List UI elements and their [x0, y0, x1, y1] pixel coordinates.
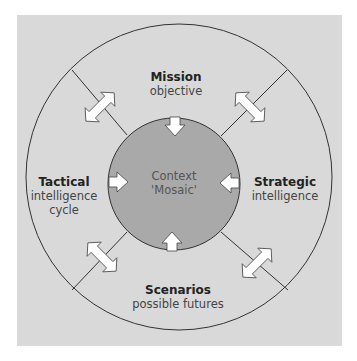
center-label-line1: Context: [151, 169, 197, 183]
intelligence-diagram: Context 'Mosaic' Mission objective Strat…: [0, 0, 357, 361]
segment-right-title: Strategic: [254, 175, 316, 189]
segment-left-title: Tactical: [38, 175, 89, 189]
segment-left-subtitle-1: intelligence: [31, 189, 98, 203]
segment-right-subtitle: intelligence: [252, 189, 319, 203]
segment-left-subtitle-2: cycle: [49, 203, 79, 217]
segment-top-title: Mission: [150, 70, 201, 84]
center-label-line2: 'Mosaic': [151, 183, 197, 197]
segment-bottom-subtitle: possible futures: [132, 297, 223, 311]
segment-bottom-title: Scenarios: [145, 283, 211, 297]
segment-top-subtitle: objective: [150, 84, 203, 98]
